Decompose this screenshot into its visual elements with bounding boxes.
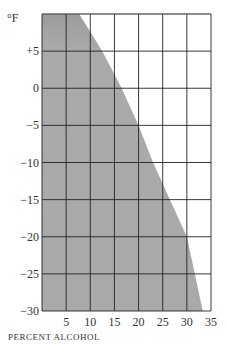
y-tick-label: −5 <box>26 118 39 132</box>
y-tick-labels: +50−5−10−15−20−25−30 <box>20 44 39 318</box>
x-tick-label: 15 <box>108 315 120 329</box>
x-axis-title: PERCENT ALCOHOL <box>8 332 100 342</box>
y-tick-label: −25 <box>20 267 39 281</box>
y-tick-label: −30 <box>20 304 39 318</box>
y-tick-label: −20 <box>20 230 39 244</box>
y-axis-unit: °F <box>7 11 19 25</box>
x-tick-label: 30 <box>181 315 193 329</box>
y-tick-label: −15 <box>20 193 39 207</box>
y-tick-label: 0 <box>33 81 39 95</box>
y-tick-label: −10 <box>20 156 39 170</box>
x-tick-label: 10 <box>84 315 96 329</box>
x-tick-labels: 5101520253035 <box>63 315 217 329</box>
plot-area <box>42 14 211 311</box>
freezing-point-chart: °F +50−5−10−15−20−25−30 5101520253035 PE… <box>0 0 227 346</box>
x-tick-label: 25 <box>157 315 169 329</box>
x-tick-label: 5 <box>63 315 69 329</box>
x-tick-label: 20 <box>133 315 145 329</box>
x-tick-label: 35 <box>205 315 217 329</box>
y-tick-label: +5 <box>26 44 39 58</box>
